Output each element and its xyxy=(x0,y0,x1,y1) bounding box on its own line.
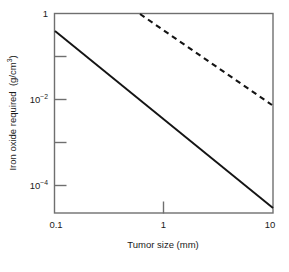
x-tick-label-10: 10 xyxy=(265,219,276,230)
series-dashed-line xyxy=(140,14,272,105)
y-tick-label-1: 1 xyxy=(43,8,48,19)
y-axis-ticks xyxy=(55,57,67,186)
x-axis-title: Tumor size (mm) xyxy=(127,239,198,250)
series-solid-line xyxy=(55,31,273,208)
y-tick-label-1e-4: 10−4 xyxy=(30,179,49,191)
y-tick-label-1e-2: 10−2 xyxy=(30,93,49,105)
line-chart: 1 10−2 10−4 0.1 1 10 Tumor size (mm) Iro… xyxy=(0,0,289,272)
x-tick-label-0.1: 0.1 xyxy=(49,219,62,230)
figure-container: 1 10−2 10−4 0.1 1 10 Tumor size (mm) Iro… xyxy=(0,0,289,272)
plot-frame xyxy=(55,14,274,214)
y-axis-title: Iron oxide required (g/cm3) xyxy=(6,55,18,170)
x-tick-label-1: 1 xyxy=(161,219,166,230)
